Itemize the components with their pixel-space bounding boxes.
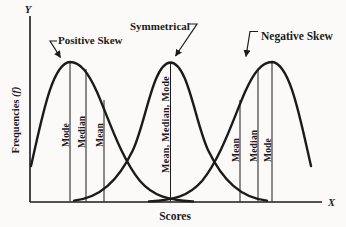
symmetrical-annotation: Symmetrical [130, 20, 190, 32]
negative-mode-label: Mode [263, 138, 273, 162]
y-axis-symbol: Y [25, 4, 33, 15]
distribution-skew-figure: Y X Frequencies(f) Scores Mode Median Me… [0, 0, 346, 227]
negative-skew-annotation: Negative Skew [261, 30, 334, 43]
symmetrical-measures-label: Mean, Median, Mode [160, 76, 171, 173]
negative-skew-curve [149, 62, 311, 201]
negative-mean-label: Mean [231, 137, 241, 162]
positive-mode-label: Mode [61, 123, 71, 147]
y-axis-title: Frequencies(f) [10, 86, 22, 153]
skewness-diagram-svg: Y X Frequencies(f) Scores Mode Median Me… [0, 0, 346, 227]
y-axis-title-main: Frequencies [10, 99, 21, 153]
negative-skew-arrow [246, 32, 258, 57]
x-axis-title: Scores [159, 210, 191, 222]
x-axis-symbol: X [327, 197, 336, 208]
negative-median-label: Median [249, 129, 259, 162]
positive-skew-annotation: Positive Skew [58, 34, 123, 46]
positive-median-label: Median [77, 115, 87, 148]
positive-mean-label: Mean [95, 122, 105, 147]
y-axis-title-italic: (f) [10, 86, 22, 97]
